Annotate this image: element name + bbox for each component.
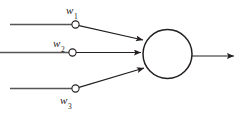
weight-label-2: w2 — [53, 38, 65, 49]
weight-label-1-subscript: 1 — [74, 12, 78, 21]
soma-circle — [143, 30, 192, 79]
input-lines-group — [0, 25, 72, 89]
weight-nodes-group — [69, 21, 79, 92]
weight-node-2 — [69, 49, 76, 56]
dendrite-arrow-1 — [79, 26, 143, 40]
weight-node-3 — [72, 85, 79, 92]
weight-label-1: w1 — [66, 5, 78, 16]
weight-label-1-symbol: w — [66, 4, 74, 16]
dendrite-arrows-group — [76, 26, 144, 88]
weight-label-2-symbol: w — [53, 37, 61, 49]
weight-label-3: w3 — [60, 95, 72, 106]
weight-label-3-subscript: 3 — [68, 102, 72, 111]
weight-node-1 — [72, 21, 79, 28]
weight-label-2-subscript: 2 — [61, 45, 65, 54]
neuron-diagram-canvas — [0, 0, 243, 120]
neuron-diagram: w1 w2 w3 — [0, 0, 243, 120]
dendrite-arrow-3 — [79, 68, 144, 87]
weight-label-3-symbol: w — [60, 94, 68, 106]
